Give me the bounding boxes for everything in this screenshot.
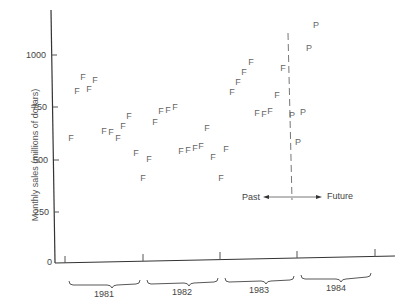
data-point-f: F [185,146,191,155]
chart-canvas [0,0,400,304]
data-point-p: P [289,110,295,119]
data-point-p: P [306,43,312,52]
data-point-f: F [86,85,92,94]
x-axis [55,256,395,263]
year-brace-1984 [301,273,371,282]
year-label-1982: 1982 [152,287,212,297]
data-point-f: F [210,152,216,161]
data-point-f: F [198,141,204,150]
data-point-f: F [241,68,247,77]
year-label-1984: 1984 [306,283,366,293]
data-point-f: F [254,109,260,118]
data-point-f: F [140,173,146,182]
data-point-f: F [101,126,107,135]
data-point-f: F [204,123,210,132]
data-point-f: F [261,110,267,119]
data-point-f: F [80,73,86,82]
year-label-1983: 1983 [229,285,289,295]
year-brace-1983 [225,276,294,284]
data-point-f: F [126,111,132,120]
data-point-f: F [267,106,273,115]
data-point-f: F [280,63,286,72]
data-point-f: F [223,145,229,154]
y-axis [51,10,55,263]
data-point-f: F [108,127,114,136]
data-point-f: F [274,90,280,99]
data-point-f: F [68,134,74,143]
data-point-f: F [115,134,121,143]
data-point-f: F [192,143,198,152]
data-point-f: F [74,87,80,96]
data-point-f: F [229,88,235,97]
data-point-f: F [146,155,152,164]
y-tick-label: 1000 [16,50,46,60]
data-point-f: F [158,106,164,115]
past-label: Past [242,192,260,202]
data-point-f: F [120,121,126,130]
data-point-p: P [300,107,306,116]
y-axis-label: Monthly sales (millions of dollars) [30,70,40,240]
data-point-f: F [152,117,158,126]
data-point-f: F [248,58,254,67]
data-point-f: F [92,75,98,84]
year-label-1981: 1981 [74,289,134,299]
year-brace-1981 [69,280,140,288]
year-brace-1982 [147,278,218,286]
data-point-f: F [165,105,171,114]
data-point-p: P [313,21,319,30]
future-label: Future [327,191,353,201]
data-point-f: F [133,149,139,158]
data-point-f: F [235,78,241,87]
data-point-f: F [218,173,224,182]
future-arrowhead [316,195,322,199]
y-tick-label: 0 [22,257,52,267]
data-point-f: F [178,146,184,155]
data-point-p: P [295,138,301,147]
data-point-f: F [172,103,178,112]
past-arrowhead [263,195,269,199]
